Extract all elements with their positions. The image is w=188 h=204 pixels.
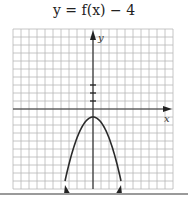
graph: x y [0,0,188,204]
y-axis-arrow-icon [90,30,96,40]
separator-line [0,193,188,195]
x-axis-arrow-icon [163,106,172,112]
y-axis-label: y [97,32,104,43]
x-axis-label: x [164,113,170,124]
